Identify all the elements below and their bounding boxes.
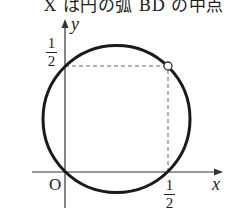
- x-axis-label: x: [212, 174, 220, 195]
- y-tick-numerator: 1: [48, 36, 56, 51]
- y-tick-label: 1 2: [46, 36, 57, 69]
- origin-label: O: [49, 175, 61, 195]
- coordinate-figure: [0, 0, 231, 212]
- y-axis-label: y: [71, 14, 79, 35]
- y-tick-denominator: 2: [48, 54, 56, 69]
- y-axis-arrow-icon: [62, 19, 69, 28]
- x-tick-numerator: 1: [166, 178, 174, 193]
- x-tick-label: 1 2: [164, 178, 175, 211]
- open-point-marker: [164, 62, 172, 70]
- x-tick-denominator: 2: [166, 196, 174, 211]
